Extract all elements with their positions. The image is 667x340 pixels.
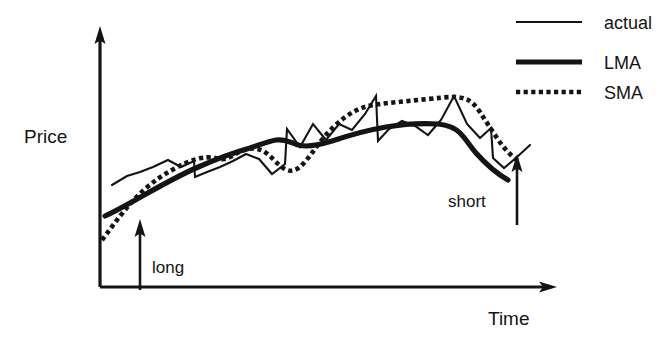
series-line-sma	[102, 97, 518, 240]
legend-label-actual: actual	[604, 13, 652, 33]
legend-item-actual: actual	[516, 13, 652, 33]
axes-group	[95, 26, 558, 293]
long-arrow-label: long	[152, 258, 184, 277]
y-axis-label: Price	[24, 126, 67, 147]
price-moving-average-chart: Price Time long short actual	[0, 0, 667, 340]
short-arrow-label: short	[448, 192, 486, 211]
chart-figure: Price Time long short actual	[0, 0, 667, 340]
legend-label-lma: LMA	[604, 53, 641, 73]
legend-item-sma: SMA	[516, 83, 643, 103]
legend: actual LMA SMA	[516, 13, 652, 103]
x-axis-label: Time	[488, 308, 530, 329]
legend-item-lma: LMA	[516, 53, 641, 73]
annotation-long: long	[135, 219, 185, 290]
legend-label-sma: SMA	[604, 83, 643, 103]
